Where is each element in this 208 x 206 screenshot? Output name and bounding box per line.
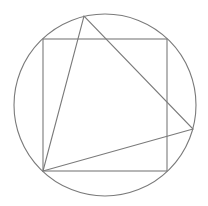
- geometry-figure: [0, 0, 208, 206]
- inscribed-square: [43, 39, 167, 171]
- circumscribed-circle: [14, 14, 196, 196]
